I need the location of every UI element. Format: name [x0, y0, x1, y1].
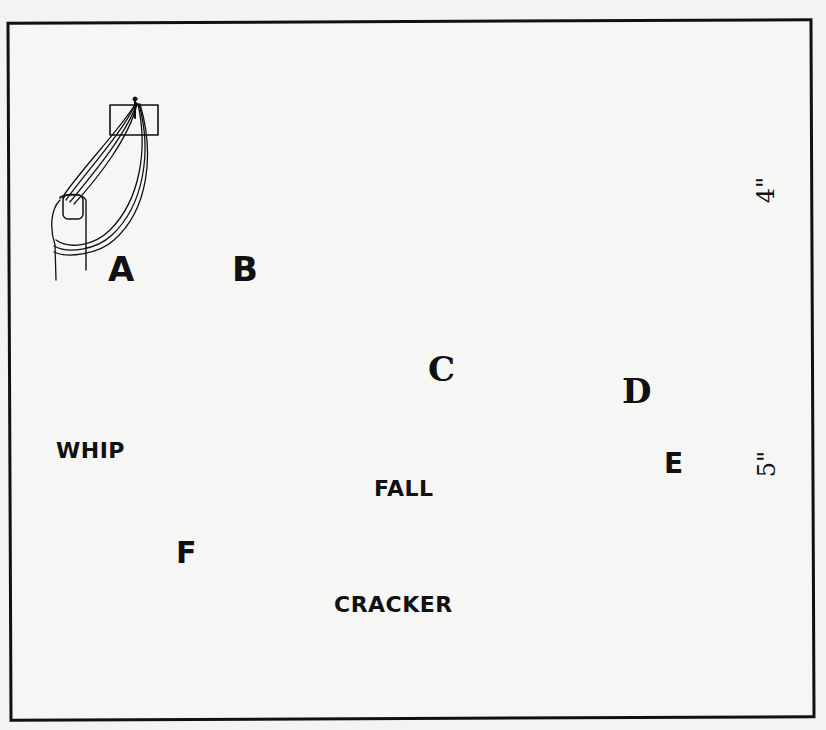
label-step-f: F	[176, 538, 197, 568]
dimension-4in: 4"	[752, 177, 780, 203]
dimension-5in: 5"	[753, 451, 781, 477]
thumb	[60, 194, 86, 270]
label-fall: FALL	[374, 478, 434, 500]
label-step-e: E	[664, 450, 683, 478]
pin-head-icon	[133, 97, 137, 101]
label-step-d: D	[622, 374, 651, 408]
step-a-drawing	[52, 97, 158, 280]
label-cracker: CRACKER	[334, 594, 453, 616]
illustration	[0, 0, 826, 730]
label-step-b: B	[232, 252, 258, 286]
label-whip: WHIP	[56, 440, 125, 462]
label-step-c: C	[428, 352, 455, 386]
label-step-a: A	[108, 252, 134, 286]
